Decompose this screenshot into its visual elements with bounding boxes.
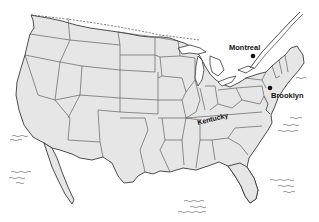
lake-huron: [210, 56, 224, 76]
lake-erie: [218, 76, 236, 86]
brooklyn-marker: [268, 86, 273, 91]
montreal-marker: [251, 54, 256, 59]
ocean-waves-atlantic-1: [278, 117, 302, 132]
ocean-waves-pacific-1: [10, 135, 28, 141]
land-area: [16, 15, 304, 204]
ocean-waves-atlantic-2: [270, 179, 295, 193]
lake-ontario: [238, 66, 254, 73]
ocean-waves-pacific-2: [9, 171, 31, 184]
florida: [228, 163, 258, 203]
montreal-label: Montreal: [229, 43, 260, 52]
us-map: Montreal Brooklyn Kentucky: [0, 0, 319, 222]
ocean-waves-east: [296, 77, 307, 78]
ocean-waves-gulf: [178, 200, 206, 213]
brooklyn-label: Brooklyn: [271, 91, 304, 100]
